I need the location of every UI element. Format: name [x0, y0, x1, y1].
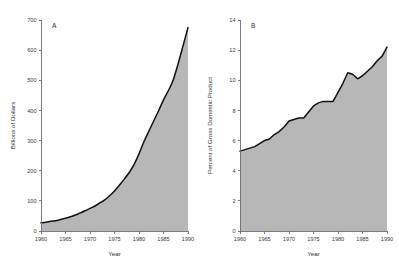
x-tick-label: 1980 — [133, 236, 145, 242]
panel-a-letter: A — [52, 22, 57, 29]
x-tick-label: 1980 — [332, 236, 344, 242]
panel-a-area-fill — [41, 28, 188, 231]
panel-a-x-axis-title: Year — [108, 250, 121, 257]
panel-b-y-ticks: 02468101214 — [229, 17, 240, 234]
y-tick-label: 500 — [27, 77, 36, 83]
y-tick-label: 2 — [232, 198, 235, 204]
panel-a-x-ticks: 1960196519701975198019851990 — [35, 231, 194, 242]
panel-b-letter: B — [251, 22, 256, 29]
y-tick-label: 300 — [27, 138, 36, 144]
y-tick-label: 0 — [33, 228, 36, 234]
x-tick-label: 1960 — [234, 236, 246, 242]
y-tick-label: 100 — [27, 198, 36, 204]
y-tick-label: 600 — [27, 47, 36, 53]
x-tick-label: 1990 — [381, 236, 393, 242]
panel-b-area-fill — [240, 47, 387, 231]
y-tick-label: 6 — [232, 138, 235, 144]
x-tick-label: 1985 — [356, 236, 368, 242]
x-tick-label: 1965 — [258, 236, 270, 242]
panel-a-plot — [41, 28, 188, 231]
panel-b-plot — [240, 47, 387, 231]
y-tick-label: 0 — [232, 228, 235, 234]
panel-a-svg: 0100200300400500600700 19601965197019751… — [0, 0, 199, 277]
x-tick-label: 1990 — [182, 236, 194, 242]
y-tick-label: 700 — [27, 17, 36, 23]
panel-b-x-ticks: 1960196519701975198019851990 — [234, 231, 393, 242]
panel-b-y-axis-title: Percent of Gross Domestic Product — [206, 77, 213, 174]
panel-a-y-ticks: 0100200300400500600700 — [27, 17, 41, 234]
x-tick-label: 1975 — [108, 236, 120, 242]
y-tick-label: 4 — [232, 168, 235, 174]
y-tick-label: 200 — [27, 168, 36, 174]
panel-a-y-axis-title: Billions of Dollars — [9, 102, 16, 149]
panel-b-x-axis-title: Year — [307, 250, 320, 257]
y-tick-label: 12 — [229, 47, 235, 53]
x-tick-label: 1975 — [307, 236, 319, 242]
y-tick-label: 8 — [232, 108, 235, 114]
chart-panel-b: 02468101214 1960196519701975198019851990… — [199, 0, 398, 277]
panel-a-y-axis: 0100200300400500600700 — [27, 17, 41, 234]
y-tick-label: 400 — [27, 108, 36, 114]
x-tick-label: 1985 — [157, 236, 169, 242]
panel-b-svg: 02468101214 1960196519701975198019851990… — [199, 0, 398, 277]
panel-b-y-axis: 02468101214 — [229, 17, 240, 234]
figure-root: 0100200300400500600700 19601965197019751… — [0, 0, 399, 277]
chart-panel-a: 0100200300400500600700 19601965197019751… — [0, 0, 199, 277]
x-tick-label: 1970 — [84, 236, 96, 242]
panel-b-x-axis: 1960196519701975198019851990 — [234, 231, 393, 242]
y-tick-label: 10 — [229, 77, 235, 83]
panel-a-x-axis: 1960196519701975198019851990 — [35, 231, 194, 242]
x-tick-label: 1960 — [35, 236, 47, 242]
y-tick-label: 14 — [229, 17, 235, 23]
x-tick-label: 1965 — [59, 236, 71, 242]
x-tick-label: 1970 — [283, 236, 295, 242]
